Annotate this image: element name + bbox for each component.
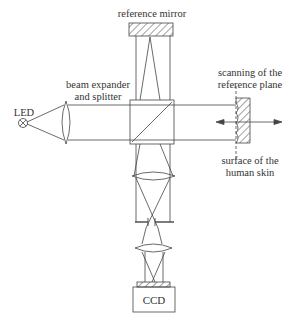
ccd-label: CCD <box>133 294 175 306</box>
imaging-lens-1-icon <box>132 172 175 180</box>
led-label: LED <box>10 107 38 119</box>
reference-mirror-label: reference mirror <box>116 8 188 20</box>
beam-splitter-icon <box>130 100 174 144</box>
scanning-label-line2: reference plane <box>214 79 286 91</box>
skin-sample-icon <box>236 86 250 160</box>
surface-label-line1: surface of the <box>212 155 288 167</box>
collimating-lens-icon <box>62 101 70 144</box>
beam-expander-label-line2: and splitter <box>62 91 134 103</box>
imaging-lens-2-icon <box>135 244 172 252</box>
scanning-label-line1: scanning of the <box>214 67 286 79</box>
surface-label-line2: human skin <box>212 167 288 179</box>
reference-mirror-icon <box>129 23 173 36</box>
led-source-icon <box>19 119 28 128</box>
beam-expander-label-line1: beam expander <box>62 79 134 91</box>
